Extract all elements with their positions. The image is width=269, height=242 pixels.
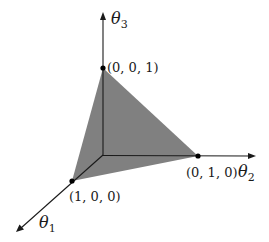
- vertex-010-dot: [195, 153, 200, 158]
- vertex-001-dot: [100, 65, 105, 70]
- theta1-arrowhead-icon: [16, 225, 24, 233]
- theta3-label: θ3: [111, 9, 128, 31]
- vertex-100-dot: [69, 178, 74, 183]
- vertex-001-label: (0, 0, 1): [107, 60, 159, 75]
- theta2-arrowhead-icon: [248, 153, 256, 159]
- vertex-100-label: (1, 0, 0): [69, 189, 121, 204]
- simplex-triangle: [72, 68, 198, 181]
- vertex-010-label: (0, 1, 0): [186, 165, 238, 180]
- simplex-diagram: (0, 0, 1) (0, 1, 0) (1, 0, 0) θ3 θ2 θ1: [0, 0, 269, 242]
- theta2-label: θ2: [238, 162, 255, 184]
- theta1-label: θ1: [39, 213, 56, 235]
- theta2-axis: [103, 156, 250, 157]
- theta3-arrowhead-icon: [100, 12, 106, 20]
